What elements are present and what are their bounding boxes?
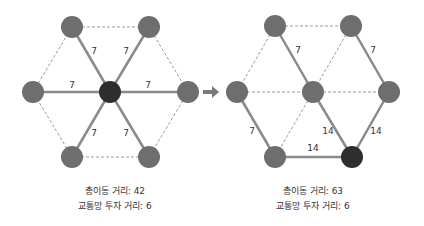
left-node <box>138 146 160 168</box>
left-hub-node <box>99 81 121 103</box>
left-investment-distance: 교통망 투자 거리: 6 <box>45 199 185 214</box>
right-dashed-edge <box>313 26 351 92</box>
right-edge-weight-label: 7 <box>370 45 376 55</box>
left-edge-weight-label: 7 <box>91 46 97 56</box>
left-node <box>22 81 44 103</box>
left-node <box>61 146 83 168</box>
left-solid-edge <box>72 92 110 157</box>
right-solid-edge <box>313 92 352 157</box>
right-node <box>302 81 324 103</box>
right-investment-distance: 교통망 투자 거리: 6 <box>243 199 383 214</box>
right-node <box>264 15 286 37</box>
left-caption: 총이동 거리: 42 교통망 투자 거리: 6 <box>45 184 185 214</box>
right-solid-edge <box>237 92 275 157</box>
right-hub-node <box>341 146 363 168</box>
right-caption: 총이동 거리: 63 교통망 투자 거리: 6 <box>243 184 383 214</box>
left-solid-edge <box>110 27 149 92</box>
left-edge-weight-label: 7 <box>145 80 151 90</box>
right-total-distance: 총이동 거리: 63 <box>243 184 383 199</box>
right-node <box>264 146 286 168</box>
right-edge-weight-label: 7 <box>249 126 255 136</box>
left-edge-weight-label: 7 <box>69 80 75 90</box>
right-solid-edge <box>351 26 389 92</box>
left-dashed-edge <box>149 27 188 92</box>
right-node <box>226 81 248 103</box>
right-solid-edge <box>352 92 389 157</box>
right-edge-weight-label: 14 <box>307 143 319 153</box>
left-dashed-edge <box>149 92 188 157</box>
left-node <box>61 16 83 38</box>
right-edge-weight-label: 7 <box>295 45 301 55</box>
left-edge-weight-label: 7 <box>91 128 97 138</box>
right-node <box>378 81 400 103</box>
left-node <box>138 16 160 38</box>
right-edge-weight-label: 14 <box>370 126 382 136</box>
left-solid-edge <box>72 27 110 92</box>
arrow-icon <box>212 86 219 98</box>
right-solid-edge <box>275 26 313 92</box>
right-dashed-edge <box>237 26 275 92</box>
right-node <box>340 15 362 37</box>
left-solid-edge <box>110 92 149 157</box>
left-edge-weight-label: 7 <box>123 128 129 138</box>
left-dashed-edge <box>33 27 72 92</box>
left-node <box>177 81 199 103</box>
right-edge-weight-label: 14 <box>322 126 334 136</box>
left-dashed-edge <box>33 92 72 157</box>
left-edge-weight-label: 7 <box>123 46 129 56</box>
left-total-distance: 총이동 거리: 42 <box>45 184 185 199</box>
